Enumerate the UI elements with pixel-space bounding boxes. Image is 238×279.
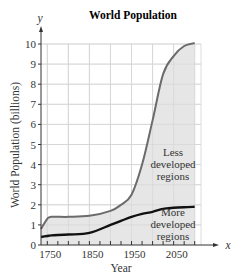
x-tick-label: 1950 (124, 248, 147, 260)
x-axis-label: Year (110, 262, 131, 274)
y-tick-label: 2 (31, 199, 37, 211)
y-axis-label: World Population (billions) (9, 82, 22, 208)
svg-text:regions: regions (157, 230, 189, 242)
x-arrow-icon (213, 243, 219, 247)
world-population-chart: World Population 012345678910 1750185019… (0, 0, 238, 279)
svg-text:developed: developed (150, 218, 196, 230)
svg-text:More: More (161, 206, 185, 218)
svg-text:developed: developed (150, 158, 196, 170)
y-tick-label: 7 (31, 98, 37, 110)
chart-title: World Population (89, 9, 177, 22)
svg-text:regions: regions (157, 170, 189, 182)
y-tick-label: 9 (31, 58, 37, 70)
y-tick-label: 8 (31, 78, 37, 90)
y-tick-label: 5 (31, 139, 37, 151)
y-tick-labels: 012345678910 (25, 38, 41, 251)
y-arrow-icon (39, 26, 43, 32)
svg-text:Less: Less (163, 146, 183, 158)
x-tick-label: 1750 (39, 248, 62, 260)
y-tick-label: 4 (31, 159, 37, 171)
x-axis-letter: x (224, 239, 231, 251)
y-tick-label: 1 (31, 219, 37, 231)
x-tick-label: 2050 (166, 248, 189, 260)
y-tick-label: 3 (31, 179, 37, 191)
y-tick-label: 6 (31, 118, 37, 130)
x-tick-label: 1850 (81, 248, 104, 260)
y-tick-label: 0 (31, 239, 37, 251)
y-tick-label: 10 (25, 38, 37, 50)
y-axis-letter: y (36, 12, 43, 25)
